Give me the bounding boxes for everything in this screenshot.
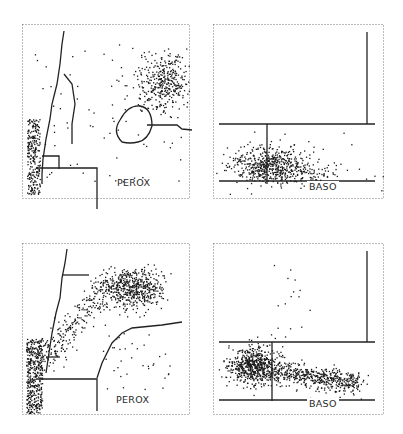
perox-label: PEROX [117, 177, 150, 188]
scatter-plot [22, 243, 190, 415]
panel-bottom-right-baso: BASO [213, 243, 384, 415]
scatter-plot [213, 24, 384, 199]
baso-label: BASO [307, 398, 339, 409]
perox-label: PEROX [116, 394, 149, 405]
baso-label: BASO [307, 181, 339, 192]
panel-top-left-perox: PEROX [22, 24, 190, 199]
scatter-plot [213, 243, 384, 415]
panel-bottom-left-perox: PEROX [22, 243, 190, 415]
scatter-plot [22, 24, 190, 199]
panel-top-right-baso: BASO [213, 24, 384, 199]
